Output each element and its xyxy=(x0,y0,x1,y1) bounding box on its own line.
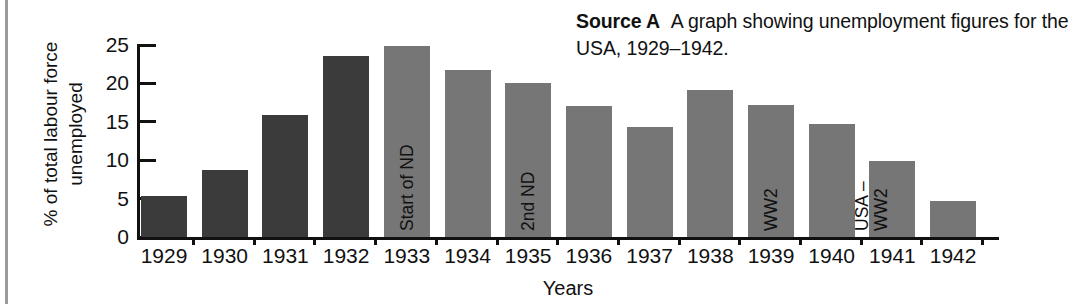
bar-1930 xyxy=(202,170,248,237)
y-axis-title-line1: % of total labour force xyxy=(38,42,63,227)
bar-1932 xyxy=(323,56,369,237)
bar-annotation-1933: Start of ND xyxy=(397,144,416,231)
x-label-1932: 1932 xyxy=(316,244,376,268)
bar-1936 xyxy=(566,106,612,237)
bar-annotation-line: Start of ND xyxy=(397,144,416,231)
x-label-1933: 1933 xyxy=(377,244,437,268)
y-tick-20: 20 xyxy=(137,82,156,85)
source-label: Source A xyxy=(576,10,660,32)
y-axis-line xyxy=(137,45,140,238)
y-tick-label-0: 0 xyxy=(117,225,129,249)
y-tick-label-15: 15 xyxy=(106,110,129,134)
bar-1941: USA –WW2 xyxy=(869,161,915,237)
bar-1931 xyxy=(262,115,308,237)
bar-1942 xyxy=(930,201,976,237)
bar-1939: WW2 xyxy=(748,105,794,237)
x-label-1935: 1935 xyxy=(498,244,558,268)
x-label-1936: 1936 xyxy=(559,244,619,268)
x-axis-line xyxy=(137,237,999,240)
page-edge-rule xyxy=(5,0,8,304)
y-tick-15: 15 xyxy=(137,120,156,123)
bar-annotation-line: WW2 xyxy=(762,188,781,231)
x-label-1937: 1937 xyxy=(620,244,680,268)
x-label-1930: 1930 xyxy=(195,244,255,268)
bar-rect-1932 xyxy=(323,56,369,237)
y-tick-label-20: 20 xyxy=(106,71,129,95)
bar-1938 xyxy=(687,90,733,237)
y-tick-label-25: 25 xyxy=(106,33,129,57)
bar-rect-1934 xyxy=(445,70,491,237)
x-axis-title: Years xyxy=(137,277,999,300)
bar-1935: 2nd ND xyxy=(505,83,551,237)
bar-annotation-1939: WW2 xyxy=(762,188,781,231)
bar-annotation-line: USA – xyxy=(853,181,872,231)
bar-rect-1942 xyxy=(930,201,976,237)
y-tick-25: 25 xyxy=(137,44,156,47)
bar-rect-1929 xyxy=(141,196,187,237)
bar-rect-1931 xyxy=(262,115,308,237)
bar-annotation-1941: USA –WW2 xyxy=(853,181,891,231)
x-label-1940: 1940 xyxy=(802,244,862,268)
y-tick-label-5: 5 xyxy=(117,187,129,211)
bar-annotation-line: 2nd ND xyxy=(519,172,538,231)
x-label-1934: 1934 xyxy=(438,244,498,268)
x-label-1939: 1939 xyxy=(741,244,801,268)
bar-1940 xyxy=(809,124,855,237)
bar-1937 xyxy=(627,127,673,237)
bar-annotation-1935: 2nd ND xyxy=(519,172,538,231)
bar-1929 xyxy=(141,196,187,237)
y-axis-title-line2: unemployed xyxy=(63,82,88,186)
y-axis-title: % of total labour force unemployed xyxy=(34,9,92,259)
x-label-1931: 1931 xyxy=(255,244,315,268)
y-tick-label-10: 10 xyxy=(106,148,129,172)
x-label-1941: 1941 xyxy=(862,244,922,268)
x-label-1929: 1929 xyxy=(134,244,194,268)
bar-rect-1937 xyxy=(627,127,673,237)
bar-1933: Start of ND xyxy=(384,46,430,237)
bar-rect-1940 xyxy=(809,124,855,237)
bar-annotation-line: WW2 xyxy=(872,181,891,231)
bar-rect-1930 xyxy=(202,170,248,237)
bar-rect-1936 xyxy=(566,106,612,237)
chart-page: Source A A graph showing unemployment fi… xyxy=(0,0,1077,304)
bar-1934 xyxy=(445,70,491,237)
x-label-1938: 1938 xyxy=(680,244,740,268)
plot-area: 0510152025 Start of ND2nd NDWW2USA –WW2 … xyxy=(137,45,999,237)
y-tick-10: 10 xyxy=(137,159,156,162)
bar-rect-1938 xyxy=(687,90,733,237)
x-label-1942: 1942 xyxy=(923,244,983,268)
